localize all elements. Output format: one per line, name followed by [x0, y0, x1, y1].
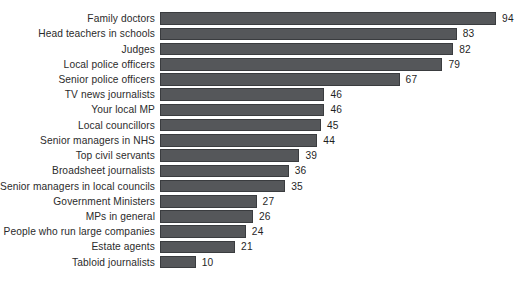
category-label: MPs in general: [0, 211, 160, 222]
bar-area: 46: [160, 87, 528, 102]
bar-rows-container: Family doctors94Head teachers in schools…: [0, 11, 528, 270]
value-label: 82: [453, 44, 471, 55]
value-label: 21: [235, 241, 253, 252]
value-label: 44: [317, 135, 335, 146]
category-label: Senior managers in NHS: [0, 135, 160, 146]
bar-row: Top civil servants39: [0, 148, 528, 163]
bar-area: 67: [160, 72, 528, 87]
category-label: Broadsheet journalists: [0, 165, 160, 176]
bar-area: 24: [160, 224, 528, 239]
value-label: 67: [400, 74, 418, 85]
category-label: Senior managers in local councils: [0, 181, 160, 192]
bar-area: 45: [160, 118, 528, 133]
bar-area: 21: [160, 239, 528, 254]
value-label: 10: [196, 257, 214, 268]
bar: [160, 180, 285, 193]
category-label: Local councillors: [0, 120, 160, 131]
bar: [160, 119, 321, 132]
value-label: 39: [299, 150, 317, 161]
category-label: Government Ministers: [0, 196, 160, 207]
bar-area: 10: [160, 255, 528, 270]
bar-area: 44: [160, 133, 528, 148]
category-label: Senior police officers: [0, 74, 160, 85]
bar-row: Estate agents21: [0, 239, 528, 254]
value-label: 27: [257, 196, 275, 207]
value-label: 79: [442, 59, 460, 70]
category-label: Top civil servants: [0, 150, 160, 161]
bar: [160, 104, 324, 117]
bar-chart: Family doctors94Head teachers in schools…: [0, 0, 528, 303]
bar: [160, 58, 442, 71]
bar: [160, 28, 457, 41]
bar-area: 46: [160, 102, 528, 117]
bar-area: 26: [160, 209, 528, 224]
bar-area: 39: [160, 148, 528, 163]
value-label: 94: [496, 13, 514, 24]
value-label: 45: [321, 120, 339, 131]
bar-area: 36: [160, 163, 528, 178]
category-label: Your local MP: [0, 104, 160, 115]
bar-row: TV news journalists46: [0, 87, 528, 102]
bar-row: Head teachers in schools83: [0, 26, 528, 41]
bar: [160, 43, 453, 56]
bar: [160, 195, 257, 208]
bar-area: 82: [160, 41, 528, 56]
bar: [160, 256, 196, 269]
bar-area: 79: [160, 57, 528, 72]
bar-row: Local police officers79: [0, 57, 528, 72]
bar-row: Your local MP46: [0, 102, 528, 117]
value-label: 46: [324, 104, 342, 115]
bar: [160, 12, 496, 25]
value-label: 46: [324, 89, 342, 100]
value-label: 36: [289, 165, 307, 176]
bar-row: Judges82: [0, 41, 528, 56]
bar-row: Government Ministers27: [0, 194, 528, 209]
bar-row: Family doctors94: [0, 11, 528, 26]
bar-row: Senior managers in NHS44: [0, 133, 528, 148]
bar-row: Broadsheet journalists36: [0, 163, 528, 178]
bar-row: Senior managers in local councils35: [0, 178, 528, 193]
value-label: 83: [457, 28, 475, 39]
category-label: People who run large companies: [0, 226, 160, 237]
value-label: 35: [285, 181, 303, 192]
bar: [160, 225, 246, 238]
value-label: 26: [253, 211, 271, 222]
category-label: Estate agents: [0, 241, 160, 252]
category-label: Head teachers in schools: [0, 28, 160, 39]
category-label: Tabloid journalists: [0, 257, 160, 268]
value-label: 24: [246, 226, 264, 237]
bar: [160, 73, 400, 86]
bar-row: MPs in general26: [0, 209, 528, 224]
bar-area: 83: [160, 26, 528, 41]
bar: [160, 241, 235, 254]
bar: [160, 210, 253, 223]
category-label: Family doctors: [0, 13, 160, 24]
bar: [160, 88, 324, 101]
bar: [160, 149, 299, 162]
bar-area: 94: [160, 11, 528, 26]
bar-area: 27: [160, 194, 528, 209]
category-label: Judges: [0, 44, 160, 55]
bar-row: People who run large companies24: [0, 224, 528, 239]
bar-row: Local councillors45: [0, 118, 528, 133]
bar-area: 35: [160, 178, 528, 193]
category-label: Local police officers: [0, 59, 160, 70]
bar-row: Tabloid journalists10: [0, 255, 528, 270]
bar: [160, 134, 317, 147]
bar-row: Senior police officers67: [0, 72, 528, 87]
bar: [160, 165, 289, 178]
category-label: TV news journalists: [0, 89, 160, 100]
